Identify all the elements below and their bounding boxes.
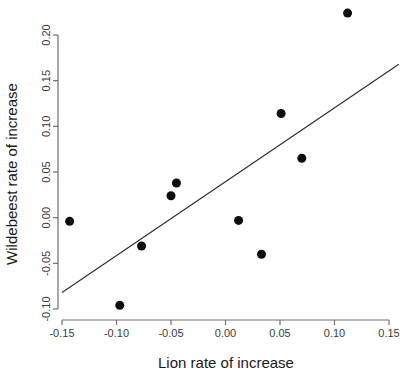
regression-line [62, 64, 399, 292]
x-tick-label: 0.10 [324, 327, 345, 339]
data-point [172, 178, 181, 187]
data-point [257, 250, 266, 259]
regression-line-group [62, 64, 399, 292]
data-point [277, 109, 286, 118]
x-tick-label: -0.10 [104, 327, 129, 339]
data-point [234, 216, 243, 225]
y-tick-label: 0.20 [40, 24, 52, 45]
x-axis-label: Lion rate of increase [158, 354, 294, 371]
data-point [343, 9, 352, 18]
axes-group: -0.10-0.050.000.050.100.150.20 -0.15-0.1… [40, 24, 400, 339]
y-axis-label: Wildebeest rate of increase [3, 83, 20, 265]
x-tick-label: -0.15 [49, 327, 74, 339]
y-tick-label: 0.00 [40, 207, 52, 228]
plot-canvas: -0.10-0.050.000.050.100.150.20 -0.15-0.1… [0, 0, 410, 377]
data-points-group [65, 9, 352, 310]
y-tick-label: 0.10 [40, 116, 52, 137]
y-axis-ticks: -0.10-0.050.000.050.100.150.20 [40, 24, 58, 321]
y-tick-label: -0.05 [40, 251, 52, 276]
x-tick-label: 0.05 [269, 327, 290, 339]
y-tick-label: 0.05 [40, 161, 52, 182]
x-tick-label: 0.00 [215, 327, 236, 339]
x-tick-label: -0.05 [158, 327, 183, 339]
data-point [115, 301, 124, 310]
data-point [65, 217, 74, 226]
data-point [167, 191, 176, 200]
y-tick-label: 0.15 [40, 70, 52, 91]
data-point [297, 154, 306, 163]
data-point [137, 241, 146, 250]
x-tick-label: 0.15 [378, 327, 399, 339]
scatter-plot-figure: -0.10-0.050.000.050.100.150.20 -0.15-0.1… [0, 0, 410, 377]
y-tick-label: -0.10 [40, 296, 52, 321]
x-axis-ticks: -0.15-0.10-0.050.000.050.100.15 [49, 320, 399, 339]
